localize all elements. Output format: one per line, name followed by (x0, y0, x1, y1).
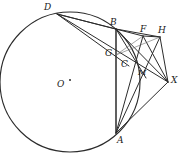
segments-group (57, 14, 168, 133)
point-label-M: M (138, 68, 146, 77)
point-label-F: F (140, 25, 146, 34)
geometry-figure: D B F H G C M X A O (0, 0, 184, 158)
segment-D-C (57, 14, 129, 66)
center-dot (69, 79, 71, 81)
point-label-H: H (158, 26, 166, 35)
segment-A-X (116, 82, 168, 133)
segment-D-F (57, 14, 143, 36)
center-marker-group (69, 79, 71, 81)
point-label-B: B (110, 18, 117, 27)
point-label-X: X (171, 76, 177, 85)
point-label-O: O (57, 80, 64, 89)
point-label-A: A (117, 136, 124, 145)
point-label-D: D (44, 3, 51, 12)
point-label-C: C (121, 60, 128, 69)
point-label-G: G (105, 49, 112, 58)
figure-canvas (0, 0, 184, 158)
